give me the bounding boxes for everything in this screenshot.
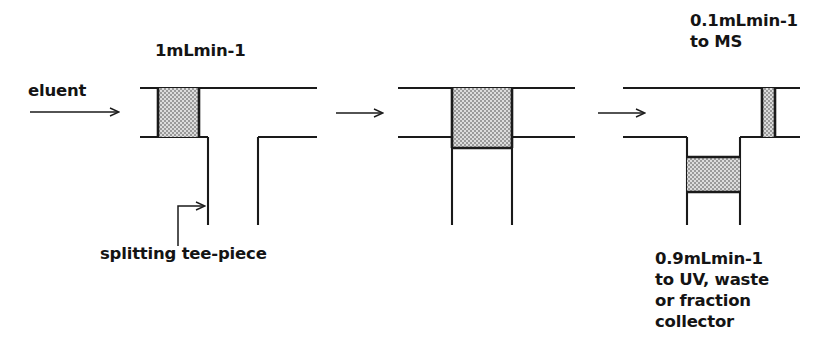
eluent-label: eluent [28, 80, 86, 101]
panel-3-waste-band [687, 157, 740, 192]
panel-3-ms-band [762, 88, 775, 137]
diagram-canvas: eluent 1mLmin-1 splitting tee-piece 0.1m… [0, 0, 823, 347]
uv-waste-outlet-label: 0.9mLmin-1 to UV, waste or fraction coll… [655, 248, 769, 332]
panel-1-sample-band [158, 88, 199, 137]
tee-piece-leader-arrow [178, 206, 204, 246]
ms-outlet-label: 0.1mLmin-1 to MS [690, 10, 798, 52]
inlet-flow-rate-label: 1mLmin-1 [155, 40, 246, 61]
panel-2-sample-band [452, 88, 512, 148]
splitting-tee-piece-label: splitting tee-piece [100, 243, 267, 264]
